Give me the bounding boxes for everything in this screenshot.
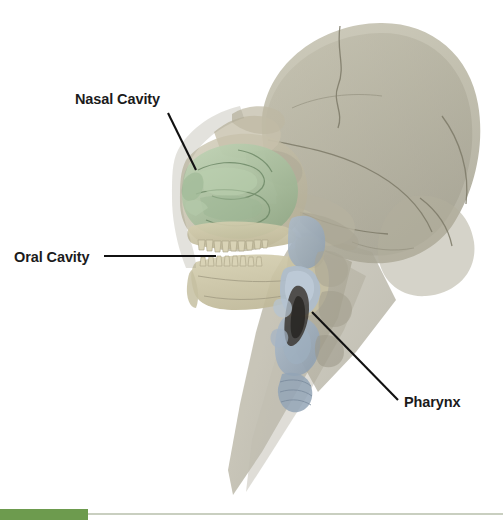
footer-accent-block: [0, 509, 88, 520]
teeth: [198, 240, 268, 252]
skull-anatomy-figure: Nasal Cavity Oral Cavity Pharynx: [0, 0, 503, 520]
footer-divider: [88, 513, 503, 515]
label-pharynx: Pharynx: [404, 394, 461, 410]
label-nasal-cavity: Nasal Cavity: [75, 91, 160, 107]
maxilla-upper-teeth: [187, 222, 296, 253]
label-oral-cavity: Oral Cavity: [14, 249, 89, 265]
skull-illustration: [172, 23, 480, 495]
